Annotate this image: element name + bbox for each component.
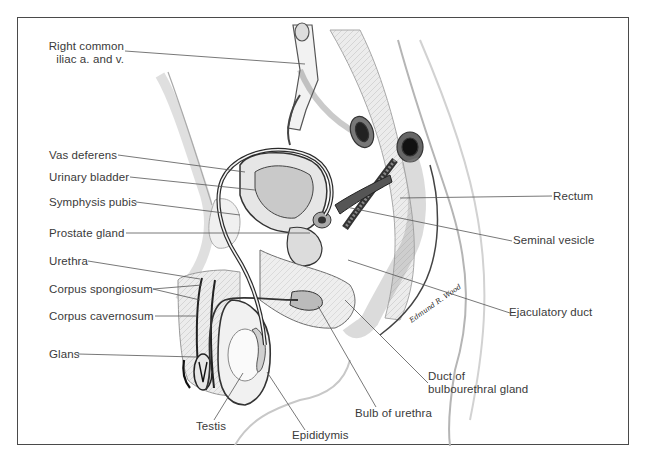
- label-vas-deferens: Vas deferens: [49, 149, 117, 162]
- label-corpus-spongiosum: Corpus spongiosum: [49, 283, 153, 296]
- label-urethra: Urethra: [49, 255, 88, 268]
- label-bulb-of-urethra: Bulb of urethra: [355, 407, 432, 420]
- label-testis: Testis: [196, 420, 226, 433]
- label-rectum: Rectum: [553, 190, 593, 203]
- label-urinary-bladder: Urinary bladder: [49, 171, 129, 184]
- symphysis-pubis: [209, 199, 240, 249]
- label-corpus-cavernosum: Corpus cavernosum: [49, 310, 154, 323]
- abdominal-wall: [160, 75, 209, 300]
- label-epididymis: Epididymis: [292, 429, 349, 442]
- label-ejaculatory-duct: Ejaculatory duct: [509, 306, 592, 319]
- label-iliac-vessels: Right common iliac a. and v.: [44, 40, 124, 66]
- label-seminal-vesicle: Seminal vesicle: [513, 234, 594, 247]
- label-glans: Glans: [49, 348, 80, 361]
- label-prostate-gland: Prostate gland: [49, 227, 125, 240]
- label-duct-bulbourethral: Duct of bulbourethral gland: [428, 370, 528, 396]
- label-symphysis-pubis: Symphysis pubis: [49, 196, 137, 209]
